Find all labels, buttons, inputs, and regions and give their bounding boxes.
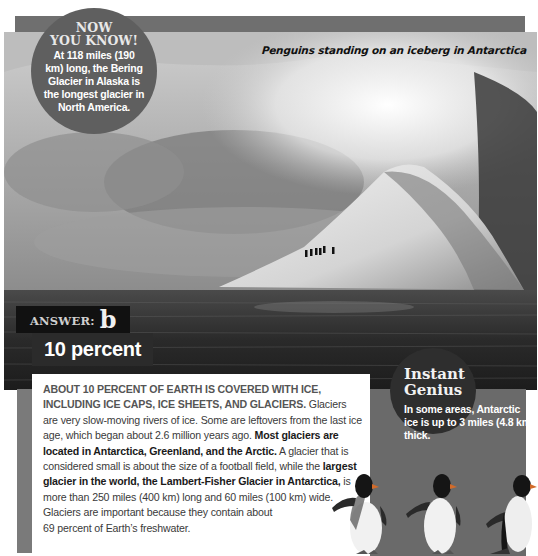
answer-letter: b: [100, 307, 117, 333]
article-text-panel: About 10 percent of Earth is covered wit…: [32, 374, 370, 556]
article-sentence-4: 69 percent of Earth’s freshwater.: [43, 522, 190, 534]
now-you-know-title-line2: YOU KNOW!: [31, 34, 157, 47]
now-you-know-badge: NOW YOU KNOW! At 118 miles (190 km) long…: [31, 8, 157, 134]
penguin-icon: [484, 472, 538, 556]
instant-genius-title: Instant Genius: [404, 366, 465, 398]
left-gray-bar: [17, 389, 33, 553]
page: Penguins standing on an iceberg in Antar…: [0, 0, 538, 556]
answer-label-box: ANSWER: b: [16, 306, 130, 333]
instant-genius-title-line1: Instant: [404, 366, 465, 382]
answer-value-box: 10 percent: [32, 333, 153, 366]
answer-label: ANSWER:: [30, 314, 95, 333]
instant-genius-body: In some areas, Antarctic ice is up to 3 …: [404, 403, 536, 442]
penguin-icon: [330, 470, 392, 556]
article-paragraph: About 10 percent of Earth is covered wit…: [43, 382, 362, 536]
penguin-icon: [404, 470, 466, 556]
now-you-know-body: At 118 miles (190 km) long, the Bering G…: [31, 49, 157, 114]
article-lead: About 10 percent of Earth is covered wit…: [43, 383, 321, 410]
photo-caption: Penguins standing on an iceberg in Antar…: [262, 44, 528, 56]
instant-genius-title-line2: Genius: [404, 382, 465, 398]
answer-value: 10 percent: [44, 338, 141, 361]
